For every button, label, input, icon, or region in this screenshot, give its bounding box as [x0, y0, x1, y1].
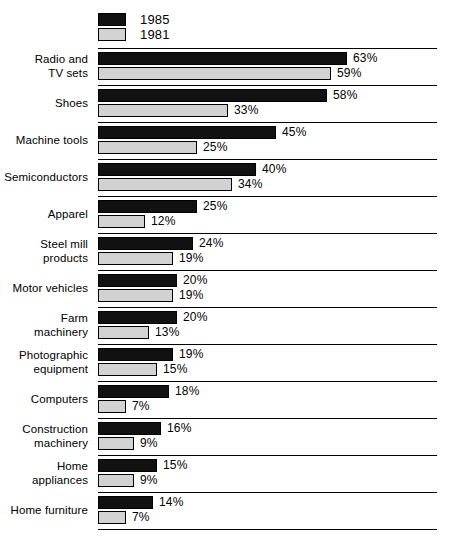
row-separator [98, 122, 437, 123]
bar-group: 25%12% [98, 200, 452, 230]
bar-line-1985: 15% [98, 459, 452, 472]
bar-value-label: 45% [282, 126, 307, 139]
chart-row: Apparel25%12% [0, 196, 452, 233]
bar-line-1985: 63% [98, 52, 452, 65]
chart-row: Machine tools45%25% [0, 122, 452, 159]
bar-value-label: 14% [159, 496, 184, 509]
bar-group: 24%19% [98, 237, 452, 267]
category-label: Apparel [0, 196, 88, 233]
bar-1981 [98, 289, 173, 302]
chart-legend: 1985 1981 [98, 12, 298, 42]
row-separator [98, 381, 437, 382]
bar-group: 16%9% [98, 422, 452, 452]
bar-1985 [98, 200, 197, 213]
bar-value-label: 12% [151, 215, 176, 228]
bar-value-label: 58% [333, 89, 358, 102]
bar-value-label: 19% [179, 289, 204, 302]
legend-label-1985: 1985 [140, 12, 170, 27]
category-label: Shoes [0, 85, 88, 122]
bar-1985 [98, 385, 169, 398]
bar-line-1981: 7% [98, 511, 452, 524]
row-separator [98, 307, 437, 308]
chart-row: Shoes58%33% [0, 85, 452, 122]
bar-value-label: 15% [163, 363, 188, 376]
bar-value-label: 59% [337, 67, 362, 80]
bar-group: 14%7% [98, 496, 452, 526]
bar-line-1981: 12% [98, 215, 452, 228]
category-label: Farm machinery [0, 307, 88, 344]
bar-value-label: 24% [199, 237, 224, 250]
legend-label-1981: 1981 [140, 27, 170, 42]
bar-1985 [98, 52, 347, 65]
bar-value-label: 20% [183, 274, 208, 287]
bar-1981 [98, 178, 232, 191]
bar-value-label: 33% [234, 104, 259, 117]
bar-value-label: 16% [167, 422, 192, 435]
bar-1981 [98, 363, 157, 376]
bar-value-label: 9% [140, 474, 158, 487]
chart-row: Home appliances15%9% [0, 455, 452, 492]
bar-line-1985: 20% [98, 311, 452, 324]
row-separator [98, 159, 437, 160]
chart-plot-area: Radio and TV sets63%59%Shoes58%33%Machin… [0, 48, 452, 530]
row-separator [98, 418, 437, 419]
chart-row: Semiconductors40%34% [0, 159, 452, 196]
bar-value-label: 25% [203, 141, 228, 154]
category-label: Home appliances [0, 455, 88, 492]
bar-1985 [98, 126, 276, 139]
bar-chart: 1985 1981 Radio and TV sets63%59%Shoes58… [0, 0, 452, 546]
bar-1981 [98, 252, 173, 265]
bar-group: 45%25% [98, 126, 452, 156]
bar-line-1985: 18% [98, 385, 452, 398]
category-label: Home furniture [0, 492, 88, 529]
chart-row: Construction machinery16%9% [0, 418, 452, 455]
legend-item-1985: 1985 [98, 12, 298, 27]
legend-item-1981: 1981 [98, 27, 298, 42]
bar-group: 18%7% [98, 385, 452, 415]
chart-row: Home furniture14%7% [0, 492, 452, 529]
bar-value-label: 25% [203, 200, 228, 213]
row-separator [98, 196, 437, 197]
bar-value-label: 18% [175, 385, 200, 398]
bar-line-1985: 24% [98, 237, 452, 250]
bar-1981 [98, 215, 145, 228]
bar-line-1981: 34% [98, 178, 452, 191]
bar-1985 [98, 422, 161, 435]
chart-row: Motor vehicles20%19% [0, 270, 452, 307]
bar-line-1981: 7% [98, 400, 452, 413]
category-label: Motor vehicles [0, 270, 88, 307]
bar-1981 [98, 326, 149, 339]
bar-value-label: 13% [155, 326, 180, 339]
bar-line-1985: 45% [98, 126, 452, 139]
bar-line-1985: 25% [98, 200, 452, 213]
bar-value-label: 7% [132, 511, 150, 524]
bar-value-label: 19% [179, 252, 204, 265]
legend-swatch-1985-icon [98, 13, 126, 26]
bar-1981 [98, 511, 126, 524]
row-separator [98, 270, 437, 271]
bar-1985 [98, 311, 177, 324]
bar-line-1981: 19% [98, 252, 452, 265]
bar-line-1985: 20% [98, 274, 452, 287]
bar-1981 [98, 400, 126, 413]
bar-group: 58%33% [98, 89, 452, 119]
bar-group: 20%13% [98, 311, 452, 341]
chart-row: Radio and TV sets63%59% [0, 48, 452, 85]
bar-group: 20%19% [98, 274, 452, 304]
bar-line-1981: 9% [98, 437, 452, 450]
row-separator [98, 48, 437, 49]
legend-swatch-1981-icon [98, 28, 126, 41]
row-separator [98, 492, 437, 493]
bar-value-label: 15% [163, 459, 188, 472]
bar-1985 [98, 348, 173, 361]
bar-group: 15%9% [98, 459, 452, 489]
bar-value-label: 34% [238, 178, 263, 191]
bar-value-label: 7% [132, 400, 150, 413]
bar-line-1985: 40% [98, 163, 452, 176]
chart-row: Photographic equipment19%15% [0, 344, 452, 381]
bar-line-1981: 25% [98, 141, 452, 154]
bar-line-1985: 16% [98, 422, 452, 435]
row-separator [98, 85, 437, 86]
bar-1985 [98, 89, 327, 102]
bar-value-label: 20% [183, 311, 208, 324]
